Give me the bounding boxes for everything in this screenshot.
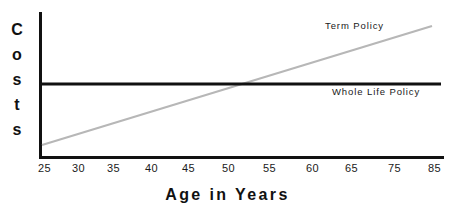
x-tick-label: 30 bbox=[72, 162, 85, 174]
x-tick-label: 35 bbox=[107, 162, 120, 174]
x-tick-label: 85 bbox=[428, 162, 441, 174]
x-tick-label: 45 bbox=[182, 162, 195, 174]
whole-life-policy-label: Whole Life Policy bbox=[332, 86, 420, 97]
x-axis-title: Age in Years bbox=[0, 186, 455, 204]
x-tick-label: 40 bbox=[145, 162, 158, 174]
x-tick-label: 55 bbox=[263, 162, 276, 174]
x-axis-tick-labels: 25 30 35 40 45 50 55 60 65 75 85 bbox=[0, 162, 455, 178]
x-tick-label: 75 bbox=[388, 162, 401, 174]
term-policy-label: Term Policy bbox=[325, 20, 384, 31]
x-tick-label: 50 bbox=[222, 162, 235, 174]
x-tick-label: 25 bbox=[38, 162, 51, 174]
x-tick-label: 60 bbox=[306, 162, 319, 174]
x-tick-label: 65 bbox=[345, 162, 358, 174]
cost-comparison-chart: C o s t s Term Policy Whole Life Policy … bbox=[0, 0, 455, 219]
